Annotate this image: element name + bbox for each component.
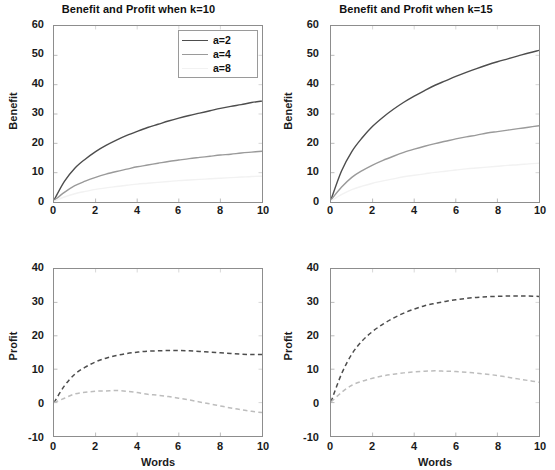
x-tick-bottom-right-8: 8 — [488, 440, 508, 452]
y-tick-top-right-40: 40 — [283, 77, 319, 89]
legend-label-a4: a=4 — [213, 47, 231, 61]
x-tick-top-right-8: 8 — [488, 204, 508, 216]
y-tick-bottom-left-40: 40 — [4, 261, 44, 273]
x-tick-top-left-2: 2 — [85, 204, 105, 216]
x-axis-label-bottom-right: Words — [330, 456, 540, 468]
series-line-a=8 — [54, 176, 262, 201]
series-line-a=2 — [54, 101, 262, 200]
x-tick-top-left-4: 4 — [127, 204, 147, 216]
series-line-a=4 — [54, 391, 262, 413]
legend-line-sample-a2 — [182, 40, 208, 41]
y-tick-top-left-40: 40 — [8, 77, 44, 89]
x-tick-top-right-0: 0 — [320, 204, 340, 216]
x-tick-top-left-8: 8 — [210, 204, 230, 216]
plot-area-bottom-right — [330, 268, 540, 437]
x-tick-bottom-left-0: 0 — [43, 440, 63, 452]
y-tick-bottom-left-20: 20 — [4, 329, 44, 341]
plot-svg-top-right — [331, 26, 539, 202]
legend-item-a8: a=8 — [182, 61, 253, 75]
y-tick-top-right-20: 20 — [283, 136, 319, 148]
x-tick-bottom-left-4: 4 — [127, 440, 147, 452]
x-tick-bottom-right-0: 0 — [320, 440, 340, 452]
figure-canvas: Benefit and Profit when k=10 Benefit 60 … — [0, 0, 555, 470]
y-tick-bottom-left-30: 30 — [4, 295, 44, 307]
x-axis-label-bottom-left: Words — [53, 456, 263, 468]
legend-label-a8: a=8 — [213, 61, 231, 75]
y-tick-top-right-50: 50 — [283, 47, 319, 59]
y-tick-top-left-30: 30 — [8, 106, 44, 118]
series-line-a=4 — [331, 371, 539, 402]
panel-top-right: Benefit and Profit when k=15 Benefit 60 … — [277, 0, 555, 235]
x-tick-top-right-4: 4 — [404, 204, 424, 216]
x-tick-top-left-6: 6 — [168, 204, 188, 216]
y-tick-bottom-left-0: 0 — [4, 397, 44, 409]
y-tick-bottom-left-10: 10 — [4, 363, 44, 375]
panel-bottom-right: Profit 40 30 20 10 0 -10 0 2 4 6 8 10 Wo… — [277, 235, 555, 470]
x-tick-bottom-right-6: 6 — [446, 440, 466, 452]
y-tick-bottom-right-10: 10 — [279, 363, 319, 375]
y-tick-top-left-50: 50 — [8, 47, 44, 59]
y-tick-bottom-right-40: 40 — [279, 261, 319, 273]
x-tick-top-left-0: 0 — [43, 204, 63, 216]
plot-area-bottom-left — [53, 268, 263, 437]
y-tick-bottom-right-20: 20 — [279, 329, 319, 341]
y-tick-top-right-10: 10 — [283, 165, 319, 177]
panel-bottom-left: Profit 40 30 20 10 0 -10 0 2 4 6 8 10 Wo… — [0, 235, 277, 470]
plot-area-top-right — [330, 25, 540, 203]
y-tick-top-right-0: 0 — [283, 195, 319, 207]
x-tick-bottom-right-4: 4 — [404, 440, 424, 452]
y-tick-top-left-0: 0 — [8, 195, 44, 207]
x-tick-top-left-10: 10 — [252, 204, 274, 216]
y-tick-bottom-left-neg10: -10 — [4, 431, 44, 443]
series-line-a=2 — [54, 350, 262, 402]
plot-svg-bottom-right — [331, 269, 539, 436]
y-tick-top-left-10: 10 — [8, 165, 44, 177]
panel-top-left: Benefit and Profit when k=10 Benefit 60 … — [0, 0, 277, 235]
plot-svg-bottom-left — [54, 269, 262, 436]
panel-title-top-left: Benefit and Profit when k=10 — [0, 3, 277, 15]
legend-label-a2: a=2 — [213, 33, 231, 47]
y-tick-top-right-60: 60 — [283, 18, 319, 30]
x-tick-bottom-right-10: 10 — [529, 440, 551, 452]
series-line-a=2 — [331, 50, 539, 199]
x-tick-top-right-2: 2 — [362, 204, 382, 216]
y-tick-top-right-30: 30 — [283, 106, 319, 118]
y-tick-bottom-right-0: 0 — [279, 397, 319, 409]
x-tick-bottom-left-10: 10 — [252, 440, 274, 452]
legend-item-a2: a=2 — [182, 33, 253, 47]
x-tick-top-right-6: 6 — [446, 204, 466, 216]
x-tick-bottom-left-6: 6 — [168, 440, 188, 452]
x-tick-top-right-10: 10 — [529, 204, 551, 216]
x-tick-bottom-left-8: 8 — [210, 440, 230, 452]
x-tick-bottom-right-2: 2 — [362, 440, 382, 452]
legend-line-sample-a8 — [182, 68, 208, 69]
legend-box: a=2 a=4 a=8 — [178, 30, 258, 78]
y-tick-bottom-right-neg10: -10 — [279, 431, 319, 443]
series-line-a=8 — [331, 163, 539, 201]
legend-line-sample-a4 — [182, 54, 208, 55]
panel-title-top-right: Benefit and Profit when k=15 — [277, 3, 555, 15]
y-tick-bottom-right-30: 30 — [279, 295, 319, 307]
y-tick-top-left-60: 60 — [8, 18, 44, 30]
legend-item-a4: a=4 — [182, 47, 253, 61]
x-tick-bottom-left-2: 2 — [85, 440, 105, 452]
y-tick-top-left-20: 20 — [8, 136, 44, 148]
series-line-a=2 — [331, 296, 539, 402]
